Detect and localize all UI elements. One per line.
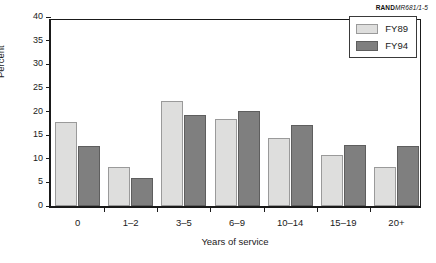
bar-fy89-2 bbox=[161, 101, 183, 206]
y-tick-label: 35 bbox=[15, 35, 43, 46]
bar-fy94-3 bbox=[238, 111, 260, 206]
x-tick-mark bbox=[157, 207, 158, 212]
legend-item-fy94: FY94 bbox=[356, 39, 408, 52]
bar-fy94-5 bbox=[344, 145, 366, 206]
y-tick-label: 40 bbox=[15, 11, 43, 22]
y-tick-label: 0 bbox=[15, 200, 43, 211]
source-note: RANDMR681/1-5 bbox=[376, 4, 428, 11]
source-note-document: MR681/1-5 bbox=[395, 4, 428, 11]
y-tick-mark bbox=[46, 64, 51, 65]
legend-label-fy89: FY89 bbox=[385, 23, 408, 34]
bar-group bbox=[215, 20, 260, 206]
x-tick-label: 1–2 bbox=[104, 217, 157, 228]
bar-fy89-1 bbox=[108, 167, 130, 206]
y-tick-label: 25 bbox=[15, 82, 43, 93]
bar-group bbox=[55, 20, 100, 206]
x-tick-mark bbox=[104, 207, 105, 212]
bar-fy94-0 bbox=[78, 146, 100, 206]
y-tick-mark bbox=[46, 206, 51, 207]
y-tick-label: 15 bbox=[15, 129, 43, 140]
x-tick-mark bbox=[264, 207, 265, 212]
x-axis-title: Years of service bbox=[49, 236, 421, 247]
x-tick-mark bbox=[210, 207, 211, 212]
x-tick-label: 3–5 bbox=[157, 217, 210, 228]
legend-swatch-fy94 bbox=[356, 41, 378, 51]
y-tick-label: 5 bbox=[15, 176, 43, 187]
legend-swatch-fy89 bbox=[356, 24, 378, 34]
bar-fy94-1 bbox=[131, 178, 153, 206]
bar-group bbox=[108, 20, 153, 206]
legend-item-fy89: FY89 bbox=[356, 22, 408, 35]
y-tick-mark bbox=[46, 87, 51, 88]
y-tick-mark bbox=[46, 17, 51, 18]
y-tick-mark bbox=[46, 40, 51, 41]
bar-fy89-4 bbox=[268, 138, 290, 207]
bar-fy89-0 bbox=[55, 122, 77, 206]
y-tick-mark bbox=[46, 111, 51, 112]
x-tick-mark bbox=[370, 207, 371, 212]
y-tick-mark bbox=[46, 182, 51, 183]
bar-group bbox=[268, 20, 313, 206]
y-tick-label: 30 bbox=[15, 58, 43, 69]
x-tick-label: 15–19 bbox=[317, 217, 370, 228]
x-tick-label: 20+ bbox=[370, 217, 423, 228]
source-note-brand: RAND bbox=[376, 4, 395, 11]
bar-fy89-6 bbox=[374, 167, 396, 206]
x-tick-label: 0 bbox=[51, 217, 104, 228]
legend-label-fy94: FY94 bbox=[385, 40, 408, 51]
bar-fy89-3 bbox=[215, 119, 237, 206]
bar-fy89-5 bbox=[321, 155, 343, 206]
y-tick-label: 20 bbox=[15, 106, 43, 117]
y-tick-label: 10 bbox=[15, 153, 43, 164]
bar-fy94-2 bbox=[184, 115, 206, 206]
bar-fy94-4 bbox=[291, 125, 313, 206]
y-tick-mark bbox=[46, 158, 51, 159]
y-axis-title: Percent bbox=[0, 45, 6, 78]
x-tick-label: 10–14 bbox=[264, 217, 317, 228]
legend: FY89 FY94 bbox=[349, 16, 417, 58]
bar-chart-figure: RANDMR681/1-5 Percent 0510152025303540 0… bbox=[0, 0, 436, 263]
bar-group bbox=[161, 20, 206, 206]
x-tick-label: 6–9 bbox=[210, 217, 263, 228]
y-tick-mark bbox=[46, 135, 51, 136]
x-tick-mark bbox=[317, 207, 318, 212]
bar-fy94-6 bbox=[397, 146, 419, 206]
